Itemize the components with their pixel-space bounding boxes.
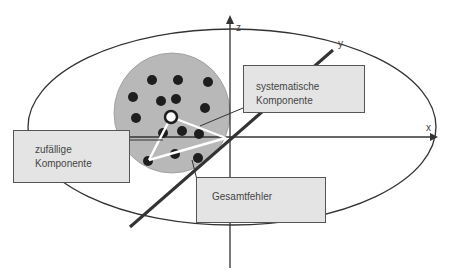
total-error-box: Gesamtfehler [196, 177, 326, 223]
y-axis-label: y [338, 38, 343, 49]
random-line1: zufällige [35, 143, 129, 157]
systematic-line1: systematische [256, 80, 364, 94]
z-axis-arrow-icon [226, 15, 234, 24]
random-line2: Komponente [35, 157, 129, 171]
systematic-line2: Komponente [256, 94, 364, 108]
total-line1: Gesamtfehler [212, 190, 325, 204]
x-axis-label: x [426, 122, 431, 133]
true-value-marker [165, 111, 177, 123]
random-component-box: zufällige Komponente [13, 130, 130, 183]
systematic-component-box: systematische Komponente [243, 65, 365, 113]
z-axis-label: z [236, 22, 241, 33]
